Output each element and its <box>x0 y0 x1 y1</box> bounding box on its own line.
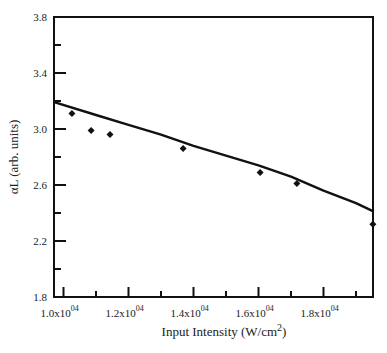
y-tick-label: 2.6 <box>33 179 47 191</box>
y-tick-label: 3.0 <box>33 123 47 135</box>
x-tick-label: 1.4x1004 <box>170 304 208 319</box>
fit-curve <box>55 102 374 211</box>
x-tick-label: 1.6x1004 <box>235 304 273 319</box>
y-axis-ticks: 1.82.22.63.03.43.8 <box>33 11 66 303</box>
y-axis-title: αL (arb. units) <box>6 120 21 195</box>
plot-frame <box>54 17 373 297</box>
x-tick-label: 1.8x1004 <box>300 304 338 319</box>
diamond-marker <box>68 110 75 117</box>
diamond-marker <box>257 169 264 176</box>
x-tick-label: 1.0x1004 <box>40 304 78 319</box>
fit-line <box>55 102 374 211</box>
x-axis-ticks: 1.0x10041.2x10041.4x10041.6x10041.8x1004 <box>40 287 356 319</box>
chart: 1.0x10041.2x10041.4x10041.6x10041.8x1004… <box>0 0 387 353</box>
diamond-marker <box>106 131 113 138</box>
y-tick-label: 2.2 <box>33 235 47 247</box>
y-tick-label: 1.8 <box>33 291 47 303</box>
x-axis-title: Input Intensity (W/cm2) <box>162 322 287 339</box>
y-tick-label: 3.4 <box>33 67 47 79</box>
diamond-marker <box>369 221 376 228</box>
plot-border <box>54 17 373 297</box>
x-tick-label: 1.2x1004 <box>105 304 143 319</box>
diamond-marker <box>88 127 95 134</box>
data-points <box>68 110 376 228</box>
y-tick-label: 3.8 <box>33 11 47 23</box>
diamond-marker <box>180 145 187 152</box>
